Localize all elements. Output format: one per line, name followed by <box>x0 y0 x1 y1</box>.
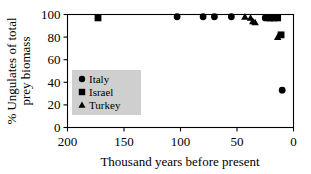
marker-square <box>95 14 102 21</box>
legend-marker-israel <box>79 89 85 95</box>
y-axis-ticks <box>64 15 68 128</box>
marker-circle <box>228 13 235 20</box>
y-tick-label: 60 <box>48 52 61 67</box>
y-axis-tick-labels: 020406080100 <box>41 7 61 135</box>
x-axis-title: Thousand years before present <box>100 154 260 169</box>
x-axis-tick-labels: 200150100500 <box>58 134 297 149</box>
y-tick-label: 40 <box>48 75 61 90</box>
x-axis-ticks <box>68 128 294 132</box>
marker-circle <box>279 87 286 94</box>
x-tick-label: 50 <box>231 134 244 149</box>
marker-circle <box>174 13 181 20</box>
legend-label-turkey: Turkey <box>89 99 121 111</box>
chart-canvas: 020406080100 200150100500 Thousand years… <box>0 0 311 174</box>
x-tick-label: 0 <box>290 134 297 149</box>
marker-circle <box>211 13 218 20</box>
legend-label-israel: Israel <box>89 86 113 98</box>
y-tick-label: 80 <box>48 30 61 45</box>
series-israel <box>95 14 285 38</box>
y-axis-title-line1: % Ungulates of total <box>4 17 19 125</box>
series-italy <box>174 13 286 93</box>
x-tick-label: 150 <box>114 134 134 149</box>
y-tick-label: 100 <box>41 7 61 22</box>
legend-marker-italy <box>79 76 85 82</box>
marker-circle <box>200 13 207 20</box>
y-tick-label: 20 <box>48 97 61 112</box>
x-tick-label: 200 <box>58 134 78 149</box>
legend-label-italy: Italy <box>89 73 110 85</box>
y-axis-title-line2: prey biomass <box>18 37 33 106</box>
marker-square <box>274 14 281 21</box>
x-tick-label: 100 <box>171 134 191 149</box>
scatter-chart-figure: 020406080100 200150100500 Thousand years… <box>0 0 311 174</box>
